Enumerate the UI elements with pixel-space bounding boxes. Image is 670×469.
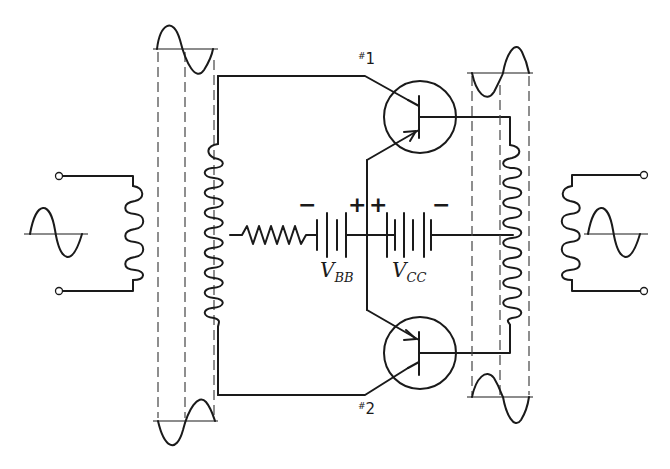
output-secondary-coil <box>562 186 580 280</box>
battery-vcc <box>387 213 513 257</box>
output-wire-bottom <box>572 280 640 291</box>
wire-to-transistor-2-base <box>218 368 408 395</box>
transistor-1 <box>367 81 510 160</box>
input-source <box>24 173 143 295</box>
output-sine-wave <box>588 208 640 257</box>
vbb-label-main: V <box>320 258 334 282</box>
transistor-1-hash: # <box>358 51 366 61</box>
vbb-label: VBB <box>320 258 354 285</box>
resistor <box>230 226 317 244</box>
input-wire-top <box>63 176 133 186</box>
input-primary-coil <box>125 186 143 280</box>
input-sine-wave <box>30 208 82 257</box>
transistor-2 <box>367 310 510 389</box>
vcc-label-main: V <box>392 258 406 282</box>
transistor-2-label: #2 <box>358 400 375 418</box>
output-terminal-bottom <box>641 288 648 295</box>
transistor-2-hash: # <box>358 401 366 411</box>
transistor-2-number: 2 <box>366 400 376 418</box>
bias-network <box>230 160 513 310</box>
vcc-label: VCC <box>392 258 426 285</box>
vcc-label-subscript: CC <box>406 270 426 285</box>
output-bottom-sine-wave <box>472 374 529 423</box>
output-wire-top <box>572 175 640 186</box>
vbb-label-subscript: BB <box>334 270 353 285</box>
transistor-1-number: 1 <box>366 50 376 68</box>
output-load <box>562 172 648 295</box>
circuit-diagram <box>0 0 670 469</box>
vbb-negative-sign: − <box>298 192 316 217</box>
input-terminal-bottom <box>56 288 63 295</box>
input-transformer-core <box>153 26 218 446</box>
vcc-negative-sign: − <box>432 192 450 217</box>
vbb-positive-sign: + <box>348 192 366 217</box>
input-wire-bottom <box>63 280 133 291</box>
input-terminal-top <box>56 173 63 180</box>
input-top-sine-wave <box>157 26 213 74</box>
vcc-positive-sign: + <box>369 192 387 217</box>
output-terminal-top <box>641 172 648 179</box>
input-bottom-sine-wave <box>158 400 215 446</box>
transistor-1-label: #1 <box>358 50 375 68</box>
wire-to-transistor-1-base <box>218 76 408 100</box>
